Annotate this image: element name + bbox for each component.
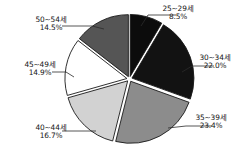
slice-label-value: 14.9% bbox=[11, 69, 69, 77]
slice-label-value: 14.5% bbox=[22, 24, 80, 32]
slice-label-35-39: 35~39세 23.4% bbox=[182, 114, 240, 131]
slice-label-value: 8.5% bbox=[150, 13, 206, 21]
slice-label-30-34: 30~34세 22.0% bbox=[186, 54, 244, 71]
slice-label-value: 22.0% bbox=[186, 62, 244, 70]
pie-slice-group bbox=[65, 14, 194, 143]
slice-label-40-44: 40~44세 16.7% bbox=[22, 124, 80, 141]
pie-chart: 25~29세 8.5% 30~34세 22.0% 35~39세 23.4% 40… bbox=[0, 0, 245, 159]
slice-label-25-29: 25~29세 8.5% bbox=[150, 5, 206, 22]
slice-label-45-49: 45~49세 14.9% bbox=[11, 61, 69, 78]
slice-label-50-54: 50~54세 14.5% bbox=[22, 16, 80, 33]
slice-label-value: 16.7% bbox=[22, 132, 80, 140]
slice-label-value: 23.4% bbox=[182, 122, 240, 130]
